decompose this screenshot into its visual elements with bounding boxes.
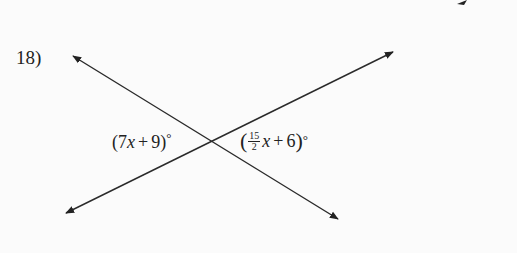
fraction-numerator: 15: [248, 131, 260, 142]
problem-number: 18): [16, 48, 41, 67]
close-paren: ): [295, 130, 302, 152]
open-paren: (: [240, 130, 247, 152]
corner-arrow-fragment-icon: [457, 0, 467, 5]
operator: +: [138, 132, 148, 152]
constant: 6: [286, 132, 295, 150]
worksheet-problem: 18) (7x+9)° ( 15 2 x + 6 ) °: [0, 0, 517, 253]
degree-symbol: °: [303, 133, 308, 146]
operator: +: [273, 132, 283, 150]
degree-symbol: °: [166, 130, 171, 145]
variable: x: [262, 132, 270, 150]
fraction: 15 2: [248, 131, 260, 152]
constant: 9: [151, 132, 160, 152]
angle-label-right: ( 15 2 x + 6 ) °: [240, 130, 308, 152]
coefficient: 7: [118, 132, 127, 152]
intersecting-lines-diagram: [0, 0, 517, 253]
fraction-denominator: 2: [251, 142, 258, 152]
variable: x: [127, 132, 135, 152]
angle-label-left: (7x+9)°: [112, 133, 171, 151]
